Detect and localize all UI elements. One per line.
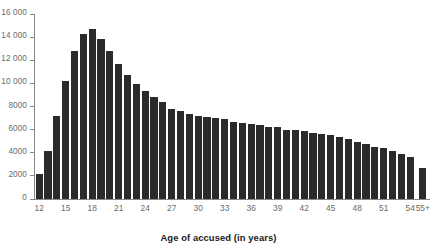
y-axis-tick-label: 12 000 [1,54,27,63]
bar [371,147,378,199]
x-axis-tick-label: 45 [326,203,335,213]
x-axis-tick-label: 15 [61,203,70,213]
bar [44,151,51,199]
y-axis-tick-mark [30,60,34,61]
x-axis-tick-label: 54 [406,203,415,213]
bar [186,114,193,199]
bar [256,125,263,199]
x-axis-tick-label: 12 [35,203,44,213]
bar [265,127,272,199]
x-axis-tick-label: 18 [88,203,97,213]
y-axis-tick-label: 10 000 [1,77,27,86]
y-axis-tick-label: 14 000 [1,31,27,40]
x-axis-tick-label: 51 [379,203,388,213]
bar [133,84,140,199]
bar [177,111,184,199]
x-axis-tick-label: 24 [141,203,150,213]
bar [301,131,308,199]
bar [36,174,43,199]
bar [168,109,175,199]
bar [419,168,426,199]
y-axis-tick-label: 2000 [8,170,27,179]
bar [336,137,343,199]
bar [150,97,157,199]
bar [327,135,334,199]
y-axis-tick-mark [30,106,34,107]
y-axis-tick-mark [30,14,34,15]
bar [407,157,414,199]
bar [345,139,352,199]
bar [71,51,78,199]
x-axis-tick-label: 48 [353,203,362,213]
bar [124,75,131,199]
x-axis-tick-label: 30 [194,203,203,213]
x-axis-tick-label: 33 [220,203,229,213]
bar [195,116,202,199]
bar [309,133,316,199]
y-axis-tick-label: 16 000 [1,8,27,17]
y-axis-tick-label: 8000 [8,101,27,110]
bar [283,130,290,199]
y-axis-tick-mark [30,129,34,130]
y-axis-tick-mark [30,199,34,200]
bar [318,134,325,199]
x-axis-tick-label: 27 [167,203,176,213]
bar [248,124,255,199]
bar [159,102,166,199]
bar [106,51,113,199]
x-axis-tick-label: 42 [300,203,309,213]
bar [80,34,87,199]
x-axis-tick-label: 36 [247,203,256,213]
x-axis-tick-label: 55+ [416,203,430,213]
x-axis-tick-label: 39 [273,203,282,213]
bar [380,148,387,199]
bar [389,151,396,199]
bar [203,117,210,199]
bar [97,39,104,199]
histogram-chart: 0200040006000800010 00012 00014 00016 00… [0,0,437,252]
x-axis-tick-label: 21 [114,203,123,213]
y-axis-tick-mark [30,175,34,176]
bar [274,127,281,199]
y-axis-tick-mark [30,152,34,153]
y-axis-tick-mark [30,37,34,38]
bar [62,81,69,199]
bar [230,122,237,199]
bar [239,123,246,199]
bar [53,116,60,199]
y-axis-tick-label: 0 [22,193,27,202]
y-axis-tick-label: 4000 [8,147,27,156]
bar [398,154,405,199]
x-axis-title: Age of accused (in years) [0,232,437,243]
bar [362,144,369,200]
bar [89,29,96,199]
bar [354,142,361,199]
y-axis-tick-label: 6000 [8,124,27,133]
bar [292,130,299,199]
y-axis-tick-mark [30,83,34,84]
bar [115,64,122,199]
x-axis-line [34,199,430,200]
plot-area [35,14,429,199]
bar [221,119,228,199]
bar [142,91,149,199]
bar [212,118,219,199]
